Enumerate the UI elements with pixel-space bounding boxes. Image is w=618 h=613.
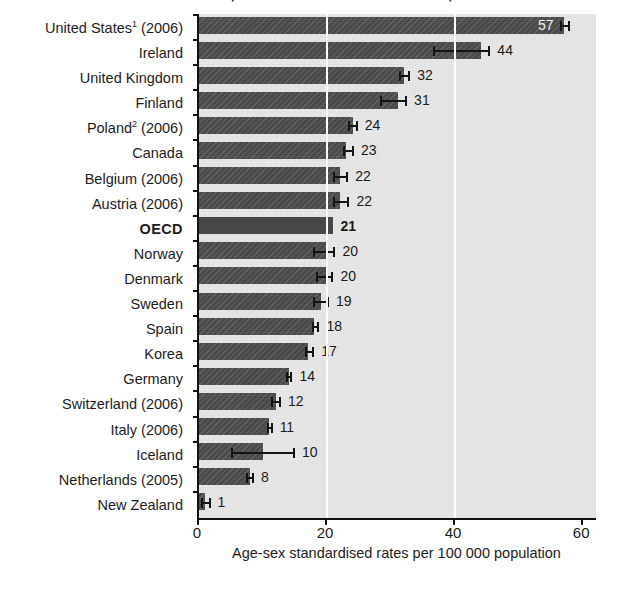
bar: [199, 318, 314, 335]
error-bar: [399, 75, 410, 77]
error-bar: [267, 427, 273, 429]
bar-row: 10: [199, 441, 596, 466]
bar-value-label: 10: [302, 444, 318, 461]
category-axis-labels: United States1 (2006)IrelandUnited Kingd…: [0, 16, 190, 518]
category-label: Finland: [0, 91, 190, 116]
x-axis-tick-label: 60: [573, 524, 590, 541]
bar-chart: Suicide rates, selected OECD countries, …: [0, 0, 618, 613]
bar-value-label: 24: [365, 117, 381, 134]
error-bar: [343, 150, 354, 152]
category-label: Ireland: [0, 41, 190, 66]
bar-value-label: 32: [417, 67, 433, 84]
bar-row: 31: [199, 89, 596, 114]
bar-row: 22: [199, 190, 596, 215]
bar: [199, 217, 333, 234]
chart-title: Suicide rates, selected OECD countries, …: [0, 0, 618, 2]
footnote-marker-1: 1: [132, 19, 137, 29]
bar-value-label: 17: [321, 343, 337, 360]
bar: [199, 142, 346, 159]
bar: [199, 468, 250, 485]
bar-row: 11: [199, 416, 596, 441]
bar: [199, 117, 353, 134]
bar-row: 17: [199, 340, 596, 365]
error-bar: [313, 251, 335, 253]
category-label: United States1 (2006): [0, 16, 190, 41]
bar: [199, 293, 321, 310]
bar-row: 14: [199, 365, 596, 390]
error-bar: [286, 376, 292, 378]
bar-value-label: 21: [340, 218, 356, 235]
x-axis-title: Age-sex standardised rates per 100 000 p…: [197, 545, 596, 561]
bar-row: 8: [199, 466, 596, 491]
x-axis-tick-label: 40: [445, 524, 462, 541]
bar-row: 32: [199, 64, 596, 89]
bar-value-label: 8: [261, 469, 269, 486]
bar-value-label: 12: [288, 393, 304, 410]
error-bar: [380, 100, 407, 102]
bar-value-label: 19: [336, 293, 352, 310]
error-bar: [305, 351, 315, 353]
bar: [199, 67, 404, 84]
bar: [199, 92, 398, 109]
category-label: Netherlands (2005): [0, 468, 190, 493]
category-label: Italy (2006): [0, 418, 190, 443]
category-label: New Zealand: [0, 493, 190, 518]
bar: [199, 192, 340, 209]
bar-row: 12: [199, 390, 596, 415]
category-label: Sweden: [0, 292, 190, 317]
error-bar: [348, 125, 358, 127]
bar-row: 20: [199, 265, 596, 290]
bar-value-label: 57: [538, 17, 554, 34]
category-label: Spain: [0, 317, 190, 342]
bar-value-label: 1: [218, 494, 226, 511]
gridline-x-40: [454, 14, 456, 518]
bar-row: 20: [199, 240, 596, 265]
gridline-x-20: [326, 14, 328, 518]
bar: [199, 17, 564, 34]
plot-area: 57443231242322222120201918171412111081: [197, 14, 596, 520]
category-label: United Kingdom: [0, 66, 190, 91]
category-label: Switzerland (2006): [0, 392, 190, 417]
error-bar: [560, 25, 571, 27]
bar-value-label: 22: [355, 168, 371, 185]
bar-value-label: 44: [497, 42, 513, 59]
bar: [199, 343, 308, 360]
bar-row: 22: [199, 165, 596, 190]
bar-row: 21: [199, 215, 596, 240]
category-label: Korea: [0, 342, 190, 367]
x-axis-tick-label: 0: [193, 524, 201, 541]
category-label: Germany: [0, 367, 190, 392]
error-bar: [201, 502, 211, 504]
bar-value-label: 14: [299, 368, 315, 385]
bar: [199, 393, 276, 410]
category-label: Iceland: [0, 443, 190, 468]
category-label: Belgium (2006): [0, 167, 190, 192]
bar-row: 24: [199, 114, 596, 139]
error-bar: [433, 50, 491, 52]
bar: [199, 167, 340, 184]
bar-value-label: 20: [342, 243, 358, 260]
bar-value-label: 11: [280, 419, 295, 436]
category-label: Austria (2006): [0, 192, 190, 217]
error-bar: [316, 276, 333, 278]
error-bar: [271, 401, 281, 403]
bar-value-label: 31: [414, 92, 430, 109]
error-bar: [312, 326, 320, 328]
footnote-marker-2: 2: [132, 120, 137, 130]
error-bar: [246, 477, 254, 479]
bar-row: 19: [199, 290, 596, 315]
category-label: Denmark: [0, 267, 190, 292]
bar-value-label: 18: [326, 318, 342, 335]
bar-row: 44: [199, 39, 596, 64]
bar-row: 1: [199, 491, 596, 516]
error-bar: [333, 201, 349, 203]
bar-rows: 57443231242322222120201918171412111081: [199, 14, 596, 516]
bar: [199, 267, 327, 284]
bar-value-label: 22: [356, 193, 372, 210]
bar-row: 57: [199, 14, 596, 39]
x-axis-tick-label: 20: [317, 524, 334, 541]
category-label: Norway: [0, 242, 190, 267]
category-label: Canada: [0, 141, 190, 166]
bar-value-label: 20: [340, 268, 356, 285]
bar-value-label: 23: [361, 142, 377, 159]
